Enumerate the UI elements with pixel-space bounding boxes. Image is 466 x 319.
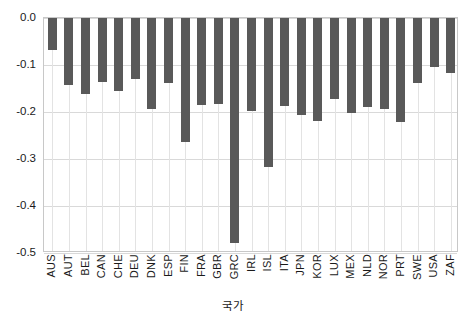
y-axis-tick-label: 0.0 (20, 11, 36, 23)
x-axis-tick-label: SWE (411, 254, 423, 280)
x-axis-tick-label: AUS (45, 254, 57, 278)
x-axis-tick-label: BEL (79, 254, 91, 276)
x-axis-tick-label: FRA (195, 254, 207, 277)
x-axis-tick-label: FIN (178, 254, 190, 273)
x-axis-tick-label: JPN (294, 254, 306, 276)
bar (114, 18, 123, 91)
bar (164, 18, 173, 83)
bar (230, 18, 239, 243)
bar (347, 18, 356, 113)
x-axis-tick-label: PRT (394, 254, 406, 277)
y-axis-tick-label: -0.3 (16, 152, 36, 164)
bar (264, 18, 273, 167)
bar (280, 18, 289, 106)
x-axis-tick-label: ZAF (444, 254, 456, 276)
x-axis-tick-label: AUT (62, 254, 74, 277)
bar (380, 18, 389, 109)
x-axis-tick-label: IRL (245, 254, 257, 272)
x-axis-tick-label: ITA (278, 254, 290, 271)
y-axis-tick-label: -0.5 (16, 246, 36, 258)
bar (181, 18, 190, 142)
x-axis: AUSAUTBELCANCHEDEUDNKESPFINFRAGBRGRCIRLI… (43, 254, 458, 300)
x-axis-tick-label: CHE (112, 254, 124, 278)
x-axis-tick-label: DNK (145, 254, 157, 278)
bar (313, 18, 322, 121)
bar (197, 18, 206, 105)
x-axis-tick-label: ISL (261, 254, 273, 271)
x-axis-tick-label: KOR (311, 254, 323, 279)
bar (330, 18, 339, 99)
x-axis-tick-label: GRC (228, 254, 240, 279)
x-axis-tick-label: MEX (344, 254, 356, 279)
x-axis-tick-label: DEU (128, 254, 140, 278)
bar (48, 18, 57, 50)
y-axis-tick-label: -0.1 (16, 58, 36, 70)
bar (214, 18, 223, 104)
x-axis-tick-label: LUX (328, 254, 340, 276)
x-axis-tick-label: ESP (162, 254, 174, 277)
y-axis: 0.0-0.1-0.2-0.3-0.4-0.5 (0, 0, 43, 269)
bar (64, 18, 73, 85)
bar (413, 18, 422, 83)
bar (363, 18, 372, 107)
x-axis-title: 국가 (0, 297, 466, 313)
bar (446, 18, 455, 73)
x-axis-tick-label: USA (427, 254, 439, 278)
x-axis-tick-label: NOR (377, 254, 389, 279)
bar (147, 18, 156, 109)
bar (247, 18, 256, 111)
bar (131, 18, 140, 79)
x-axis-tick-label: GBR (211, 254, 223, 279)
bar-series (44, 18, 457, 251)
bar (396, 18, 405, 122)
bar (98, 18, 107, 82)
y-axis-tick-label: -0.4 (16, 199, 36, 211)
x-axis-tick-label: NLD (361, 254, 373, 277)
bar (430, 18, 439, 67)
x-axis-tick-label: CAN (95, 254, 107, 278)
y-axis-tick-label: -0.2 (16, 105, 36, 117)
bar (81, 18, 90, 94)
bar (297, 18, 306, 115)
plot-area (43, 17, 458, 252)
bar-chart: 0.0-0.1-0.2-0.3-0.4-0.5 AUSAUTBELCANCHED… (0, 0, 466, 319)
